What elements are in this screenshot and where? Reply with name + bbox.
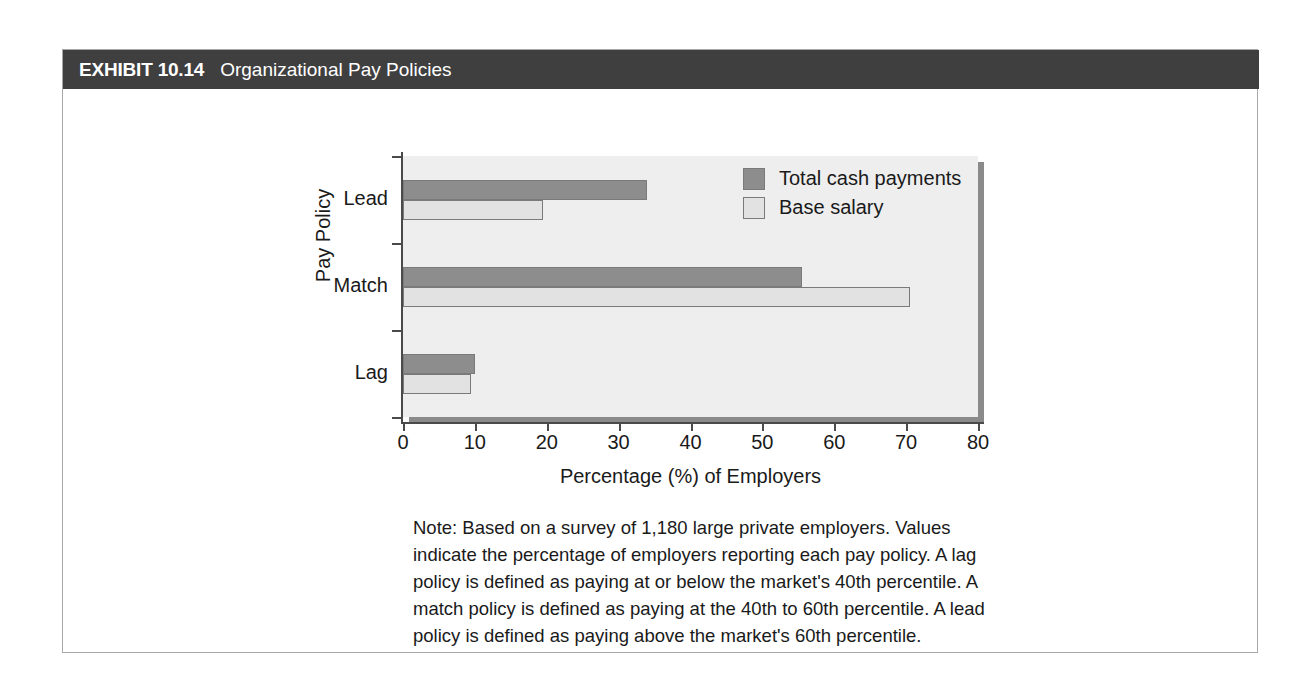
x-axis-tick: [403, 422, 405, 431]
legend-swatch: [743, 197, 765, 219]
y-axis-tick: [392, 417, 401, 419]
y-axis-title: Pay Policy: [312, 156, 335, 316]
x-axis-tick: [547, 422, 549, 431]
x-axis-tick: [619, 422, 621, 431]
bar: [403, 374, 471, 394]
bar: [403, 200, 543, 220]
legend-swatch: [743, 168, 765, 190]
x-tick-label: 70: [881, 431, 931, 454]
x-axis-tick: [978, 422, 980, 431]
x-axis-line: [401, 422, 984, 424]
x-tick-label: 10: [450, 431, 500, 454]
x-tick-label: 50: [737, 431, 787, 454]
category-label: Lag: [268, 361, 388, 384]
x-tick-label: 20: [522, 431, 572, 454]
x-axis-tick: [762, 422, 764, 431]
bar-chart: LeadMatchLag 01020304050607080 Percentag…: [63, 89, 1259, 653]
note-text: Note: Based on a survey of 1,180 large p…: [413, 514, 1013, 649]
exhibit-title: Organizational Pay Policies: [220, 59, 451, 81]
legend-item: Base salary: [743, 196, 961, 219]
exhibit-frame: EXHIBIT 10.14 Organizational Pay Policie…: [62, 49, 1258, 653]
x-axis-tick: [834, 422, 836, 431]
y-axis-line: [401, 152, 403, 422]
y-axis-tick: [392, 330, 401, 332]
bar: [403, 354, 475, 374]
legend-item: Total cash payments: [743, 167, 961, 190]
chart-legend: Total cash paymentsBase salary: [743, 167, 961, 225]
bar: [403, 287, 910, 307]
exhibit-header: EXHIBIT 10.14 Organizational Pay Policie…: [63, 50, 1259, 89]
y-axis-tick: [392, 243, 401, 245]
x-tick-label: 80: [953, 431, 1003, 454]
legend-label: Base salary: [779, 196, 884, 219]
legend-label: Total cash payments: [779, 167, 961, 190]
chart-note: Note: Based on a survey of 1,180 large p…: [413, 514, 1013, 649]
x-tick-label: 40: [666, 431, 716, 454]
bar: [403, 180, 647, 200]
bar: [403, 267, 802, 287]
x-axis-title: Percentage (%) of Employers: [403, 465, 978, 488]
y-axis-tick: [392, 156, 401, 158]
exhibit-number: EXHIBIT 10.14: [79, 59, 204, 81]
x-tick-label: 0: [378, 431, 428, 454]
x-tick-label: 60: [809, 431, 859, 454]
x-axis-tick: [691, 422, 693, 431]
x-tick-label: 30: [594, 431, 644, 454]
x-axis-tick: [475, 422, 477, 431]
x-axis-tick: [906, 422, 908, 431]
